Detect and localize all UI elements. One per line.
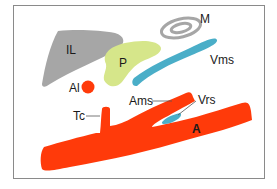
label-il: IL	[66, 43, 76, 57]
label-ams: Ams	[129, 94, 153, 108]
label-p: P	[119, 56, 127, 70]
label-tc: Tc	[73, 109, 85, 123]
label-vms: Vms	[210, 53, 234, 67]
label-vrs: Vrs	[198, 93, 216, 107]
label-a: A	[192, 122, 201, 136]
label-al: Al	[69, 81, 80, 95]
label-m: M	[200, 12, 210, 26]
anatomy-diagram: M IL P Vms Al Ams Vrs Tc A	[0, 0, 277, 189]
al-dot	[82, 81, 95, 94]
